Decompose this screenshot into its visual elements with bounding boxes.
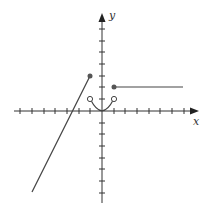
closed-endpoint — [112, 85, 117, 90]
left-line-segment — [32, 76, 90, 192]
x-axis-arrow-icon — [190, 108, 199, 115]
y-axis-label: y — [108, 9, 116, 22]
open-endpoint-right — [111, 96, 116, 101]
x-axis-label: x — [193, 115, 200, 128]
closed-endpoint — [88, 74, 93, 79]
piecewise-graph: y x — [0, 0, 214, 217]
open-endpoint-left — [87, 96, 92, 101]
y-axis-arrow-icon — [99, 13, 106, 22]
